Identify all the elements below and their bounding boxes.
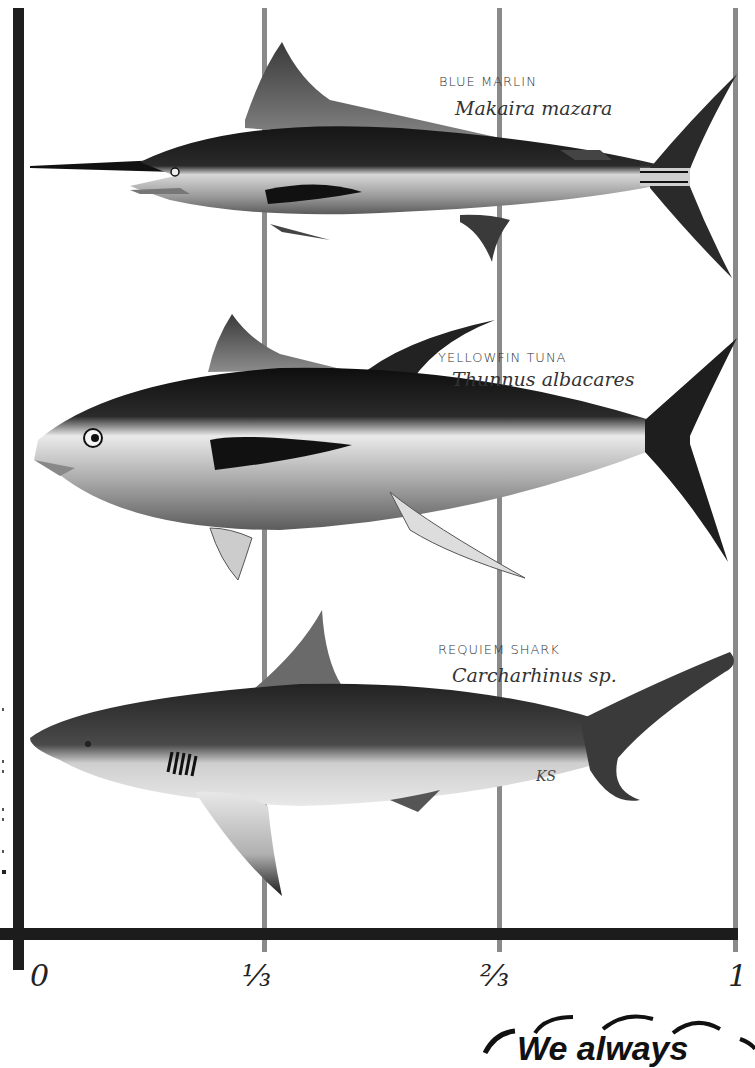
- tick-label-1: 1: [728, 958, 747, 993]
- requiem-shark-illustration: [30, 610, 734, 896]
- requiem-shark-scientific-name: Carcharhinus sp.: [452, 664, 617, 686]
- yellowfin-tuna-scientific-name: Thunnus albacares: [452, 368, 635, 390]
- blue-marlin-illustration: [30, 42, 737, 278]
- requiem-shark-common-name: REQUIEM SHARK: [438, 642, 560, 657]
- fish-illustrations: [0, 0, 738, 940]
- tick-label-two-thirds: ⅔: [480, 958, 509, 993]
- blue-marlin-scientific-name: Makaira mazara: [455, 97, 612, 119]
- artist-signature: KS: [536, 768, 556, 784]
- tick-label-one-third: ⅓: [242, 958, 271, 993]
- footer-partial-text: We always: [517, 1029, 688, 1068]
- blue-marlin-common-name: BLUE MARLIN: [439, 74, 537, 89]
- footer-brand-fragment: We always: [455, 1003, 755, 1063]
- tick-label-0: 0: [30, 958, 49, 993]
- yellowfin-tuna-common-name: YELLOWFIN TUNA: [438, 350, 567, 365]
- yellowfin-tuna-illustration: [34, 314, 737, 580]
